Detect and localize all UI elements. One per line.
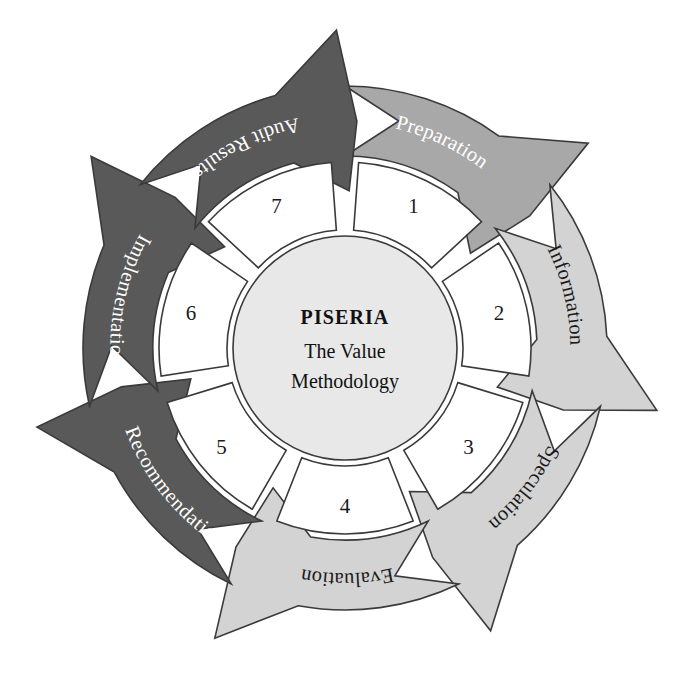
hub-subtitle-line1: The Value	[304, 340, 385, 362]
hub-title: PISERIA	[301, 306, 390, 328]
step-number-3: 3	[463, 435, 474, 459]
cycle-diagram-canvas: PISERIAThe ValueMethodology PreparationI…	[0, 0, 688, 688]
step-number-5: 5	[216, 435, 227, 459]
cycle-diagram: PISERIAThe ValueMethodology PreparationI…	[0, 0, 688, 688]
step-number-1: 1	[408, 194, 419, 218]
center-hub-layer: PISERIAThe ValueMethodology	[233, 236, 457, 460]
step-number-6: 6	[186, 301, 197, 325]
step-number-4: 4	[340, 494, 351, 518]
step-number-7: 7	[271, 194, 282, 218]
hub-subtitle-line2: Methodology	[291, 370, 399, 393]
step-number-2: 2	[494, 301, 505, 325]
